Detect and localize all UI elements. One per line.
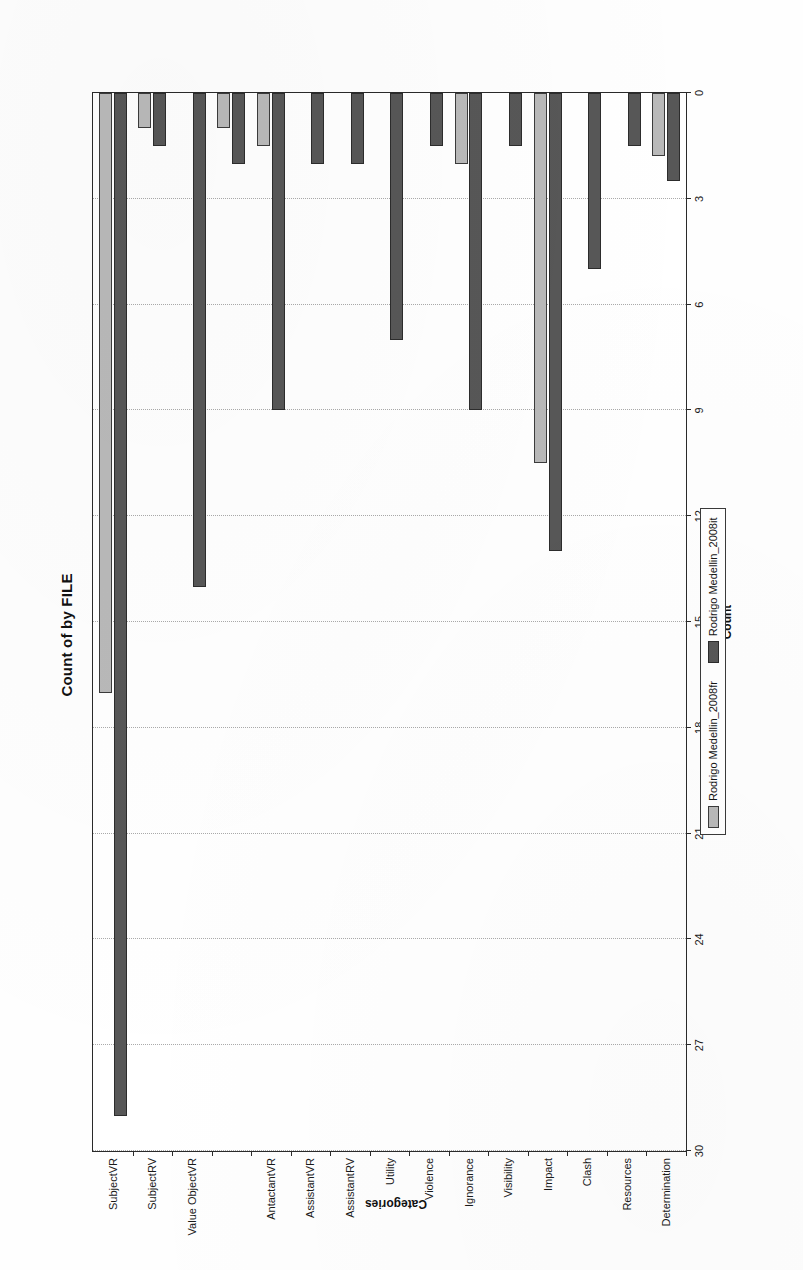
category-axis-title: Categories xyxy=(336,1197,456,1211)
bar-series-1 xyxy=(652,93,665,156)
category-axis-tick xyxy=(567,1151,568,1156)
value-axis-tick xyxy=(686,727,691,728)
value-axis-tick xyxy=(686,198,691,199)
bar-series-2 xyxy=(192,93,205,587)
bar-group xyxy=(448,93,488,1151)
category-axis-label: Visibility xyxy=(502,1158,513,1198)
category-axis-label: Ignorance xyxy=(463,1158,474,1207)
value-axis-tick xyxy=(686,409,691,410)
value-axis-tick-label: 27 xyxy=(693,1039,705,1051)
bar-series-1 xyxy=(138,93,151,128)
legend-item-series-1: Rodrigo Medellin_2008fr xyxy=(707,681,719,828)
bar-group xyxy=(211,93,251,1151)
category-axis-label: AssistantVR xyxy=(304,1158,315,1218)
bar-group xyxy=(132,93,172,1151)
bar-series-1 xyxy=(217,93,230,128)
chart-legend: Rodrigo Medellin_2008fr Rodrigo Medellin… xyxy=(700,509,726,836)
bar-series-2 xyxy=(627,93,640,146)
bar-series-1 xyxy=(256,93,269,146)
bar-series-2 xyxy=(469,93,482,410)
value-axis-tick-label: 30 xyxy=(693,1145,705,1157)
bar-group xyxy=(646,93,686,1151)
category-axis-label: Impact xyxy=(542,1158,553,1191)
bar-group xyxy=(488,93,528,1151)
bar-series-2 xyxy=(153,93,166,146)
category-axis-tick xyxy=(369,1151,370,1156)
plot-area: 036912151821242730SubjectVRSubjectRVValu… xyxy=(92,92,687,1152)
category-axis-label: Value ObjectVR xyxy=(186,1158,197,1235)
legend-swatch-icon-series-2 xyxy=(707,641,718,663)
bar-series-1 xyxy=(533,93,546,463)
category-axis-label: Violence xyxy=(423,1158,434,1200)
bar-group xyxy=(527,93,567,1151)
legend-label-series-1: Rodrigo Medellin_2008fr xyxy=(707,681,719,801)
chart-page: Count of by FILE 036912151821242730Subje… xyxy=(0,0,803,1270)
bar-group xyxy=(409,93,449,1151)
bar-series-2 xyxy=(271,93,284,410)
value-axis-tick-label: 0 xyxy=(693,90,705,96)
category-axis-label: SubjectRV xyxy=(146,1158,157,1210)
rotated-chart-container: Count of by FILE 036912151821242730Subje… xyxy=(52,40,752,1230)
value-axis-tick xyxy=(686,938,691,939)
category-axis-tick xyxy=(172,1151,173,1156)
legend-item-series-2: Rodrigo Medellin_2008it xyxy=(707,518,719,664)
bar-series-2 xyxy=(113,93,126,1116)
legend-label-series-2: Rodrigo Medellin_2008it xyxy=(707,518,719,637)
bar-group xyxy=(93,93,133,1151)
bar-series-2 xyxy=(232,93,245,164)
bar-group xyxy=(251,93,291,1151)
bar-series-2 xyxy=(429,93,442,146)
value-axis-tick-label: 24 xyxy=(693,933,705,945)
value-axis-tick xyxy=(686,304,691,305)
value-axis-tick xyxy=(686,1044,691,1045)
category-axis-tick xyxy=(330,1151,331,1156)
category-axis-tick xyxy=(606,1151,607,1156)
value-axis-tick-label: 6 xyxy=(693,302,705,308)
bar-group xyxy=(567,93,607,1151)
category-axis-tick xyxy=(646,1151,647,1156)
bar-series-1 xyxy=(454,93,467,164)
category-axis-label: Clash xyxy=(581,1158,592,1186)
bar-group xyxy=(369,93,409,1151)
category-axis-tick xyxy=(211,1151,212,1156)
category-axis-tick xyxy=(409,1151,410,1156)
value-axis-tick xyxy=(686,833,691,834)
category-axis-tick xyxy=(290,1151,291,1156)
bar-series-2 xyxy=(588,93,601,269)
category-axis-label: SubjectVR xyxy=(107,1158,118,1210)
category-axis-tick xyxy=(448,1151,449,1156)
category-axis-tick xyxy=(132,1151,133,1156)
value-axis-tick xyxy=(686,621,691,622)
category-axis-tick xyxy=(686,1151,687,1156)
bar-series-2 xyxy=(548,93,561,551)
bar-series-2 xyxy=(508,93,521,146)
value-axis-tick xyxy=(686,515,691,516)
bar-series-2 xyxy=(350,93,363,164)
bar-series-2 xyxy=(390,93,403,340)
category-axis-tick xyxy=(251,1151,252,1156)
value-axis-tick-label: 3 xyxy=(693,196,705,202)
value-axis-tick-label: 9 xyxy=(693,407,705,413)
bar-group xyxy=(330,93,370,1151)
chart-title: Count of by FILE xyxy=(58,40,75,1230)
category-axis-label: AntactantVR xyxy=(265,1158,276,1220)
bar-group xyxy=(172,93,212,1151)
value-axis-tick xyxy=(686,92,691,93)
legend-swatch-icon-series-1 xyxy=(707,806,718,828)
category-axis-label: Determination xyxy=(660,1158,671,1226)
category-axis-tick xyxy=(527,1151,528,1156)
bar-group xyxy=(290,93,330,1151)
bar-group xyxy=(606,93,646,1151)
bar-series-2 xyxy=(667,93,680,181)
category-axis-label: Utility xyxy=(384,1158,395,1185)
bar-series-1 xyxy=(98,93,111,693)
category-axis-tick xyxy=(488,1151,489,1156)
bar-series-2 xyxy=(311,93,324,164)
category-axis-label: Resources xyxy=(621,1158,632,1211)
